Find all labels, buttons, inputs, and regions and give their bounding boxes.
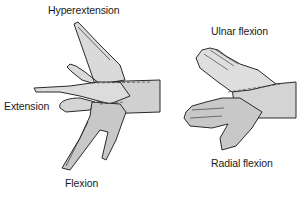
left-figure: [34, 22, 160, 170]
hand-radial-flexion: [184, 98, 262, 150]
label-hyperextension: Hyperextension: [48, 4, 120, 16]
label-radial-flexion: Radial flexion: [211, 157, 273, 169]
hand-hyperextension: [67, 22, 125, 84]
hand-ulnar-flexion: [196, 48, 276, 92]
hand-flexion: [62, 102, 126, 170]
label-ulnar-flexion: Ulnar flexion: [211, 25, 268, 37]
right-figure: [184, 48, 296, 150]
label-extension: Extension: [4, 100, 49, 112]
label-flexion: Flexion: [65, 177, 98, 189]
thumb-extension: [60, 98, 95, 112]
